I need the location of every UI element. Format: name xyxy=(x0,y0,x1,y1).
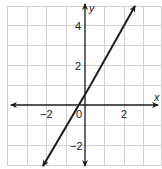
x-axis-label: x xyxy=(153,91,160,103)
tick-label-x-neg2: −2 xyxy=(40,108,53,120)
tick-label-y-2: 2 xyxy=(75,60,81,72)
tick-label-y-4: 4 xyxy=(75,20,81,32)
coordinate-plane: x y −2 0 2 4 2 −2 xyxy=(0,0,162,169)
tick-label-origin: 0 xyxy=(76,108,82,120)
tick-label-x-2: 2 xyxy=(121,108,127,120)
y-axis-label: y xyxy=(88,2,96,14)
tick-label-y-neg2: −2 xyxy=(70,140,83,152)
